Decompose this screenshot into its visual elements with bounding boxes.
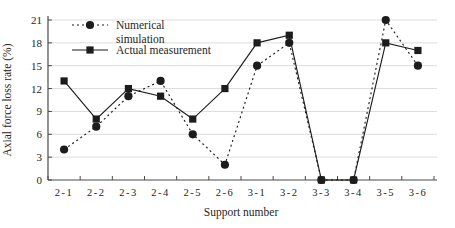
data-point-square <box>414 47 421 54</box>
data-point-circle <box>285 39 293 47</box>
legend-label: Actual measurement <box>116 44 212 56</box>
data-point-circle <box>253 62 261 70</box>
gridlines-group <box>48 20 437 157</box>
legend: NumericalsimulationActual measurement <box>72 19 212 56</box>
data-point-square <box>221 85 228 92</box>
x-category-label: 3-4 <box>344 187 363 198</box>
data-point-circle <box>382 16 390 24</box>
data-point-circle <box>124 92 132 100</box>
x-category-label: 3-2 <box>280 187 299 198</box>
data-point-circle <box>349 176 357 184</box>
axes-group <box>48 16 437 180</box>
data-point-circle <box>156 77 164 85</box>
data-point-square <box>125 85 132 92</box>
data-series-group <box>60 16 422 184</box>
x-category-label: 2-4 <box>151 187 170 198</box>
data-point-square <box>189 115 196 122</box>
data-point-circle <box>221 161 229 169</box>
data-point-circle <box>189 130 197 138</box>
x-category-label: 2-1 <box>55 187 74 198</box>
ticks-group: 0369121518212-12-22-32-42-52-63-13-23-33… <box>31 14 434 198</box>
data-point-square <box>286 32 293 39</box>
x-category-label: 3-3 <box>312 187 331 198</box>
data-point-square <box>382 39 389 46</box>
data-point-square <box>157 93 164 100</box>
data-point-square <box>60 77 67 84</box>
x-category-label: 3-5 <box>377 187 396 198</box>
data-point-circle <box>92 123 100 131</box>
legend-marker-square <box>86 46 93 53</box>
y-axis-title: Axial force loss rate (%) <box>1 43 14 156</box>
x-category-label: 2-3 <box>119 187 138 198</box>
y-tick-label: 12 <box>31 83 42 95</box>
line-chart-canvas: 0369121518212-12-22-32-42-52-63-13-23-33… <box>0 0 455 228</box>
data-point-square <box>253 39 260 46</box>
y-tick-label: 3 <box>37 151 43 163</box>
y-tick-label: 9 <box>37 105 43 117</box>
y-tick-label: 18 <box>31 37 43 49</box>
legend-marker-circle <box>86 21 94 29</box>
data-point-circle <box>414 62 422 70</box>
x-category-label: 3-6 <box>409 187 428 198</box>
x-category-label: 3-1 <box>248 187 267 198</box>
legend-label: simulation <box>116 33 165 45</box>
y-tick-label: 21 <box>31 14 42 26</box>
y-tick-label: 0 <box>37 174 43 186</box>
x-category-label: 2-5 <box>184 187 203 198</box>
x-axis-title: Support number <box>204 206 279 219</box>
data-point-circle <box>317 176 325 184</box>
series-line-square <box>64 35 418 180</box>
y-tick-label: 6 <box>37 128 43 140</box>
y-tick-label: 15 <box>31 60 43 72</box>
x-category-label: 2-2 <box>87 187 106 198</box>
axial-force-loss-rate-chart: 0369121518212-12-22-32-42-52-63-13-23-33… <box>0 0 455 228</box>
legend-label: Numerical <box>116 19 165 31</box>
x-category-label: 2-6 <box>216 187 235 198</box>
data-point-square <box>93 115 100 122</box>
data-point-circle <box>60 145 68 153</box>
